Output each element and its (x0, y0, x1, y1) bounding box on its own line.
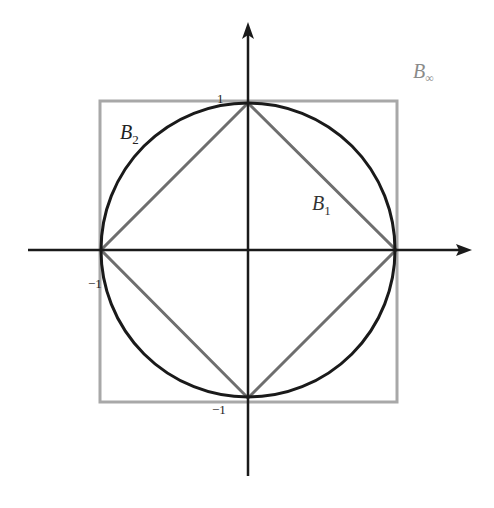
label-b1: B1 (312, 192, 331, 218)
tick-x-neg: −1 (88, 276, 102, 291)
norm-unit-balls-diagram: 1 −1 −1 B∞ B2 B1 (0, 0, 494, 508)
label-b-inf: B∞ (413, 60, 434, 85)
tick-y-neg: −1 (212, 402, 226, 417)
tick-y-pos: 1 (217, 91, 224, 106)
label-b2: B2 (120, 121, 139, 147)
